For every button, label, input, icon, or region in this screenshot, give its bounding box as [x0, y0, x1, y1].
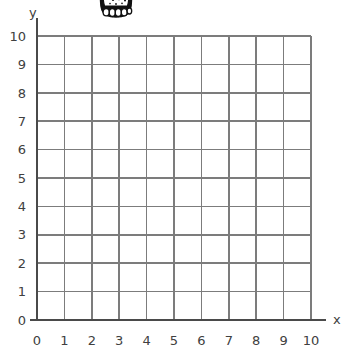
y-tick-9: 9	[0, 58, 26, 71]
x-tick-0: 0	[24, 334, 50, 347]
y-tick-1: 1	[0, 285, 26, 298]
coordinate-grid	[0, 0, 353, 363]
x-tick-9: 9	[271, 334, 297, 347]
worksheet-page: y x 10 9 8 7 6 5 4 3 2 1 0 0 1 2 3 4 5 6…	[0, 0, 353, 363]
y-tick-7: 7	[0, 115, 26, 128]
y-tick-3: 3	[0, 228, 26, 241]
x-tick-6: 6	[188, 334, 214, 347]
y-tick-5: 5	[0, 172, 26, 185]
y-tick-6: 6	[0, 143, 26, 156]
y-tick-2: 2	[0, 257, 26, 270]
x-tick-5: 5	[161, 334, 187, 347]
y-tick-4: 4	[0, 200, 26, 213]
x-tick-7: 7	[216, 334, 242, 347]
x-tick-10: 10	[298, 334, 324, 347]
y-tick-8: 8	[0, 87, 26, 100]
x-tick-1: 1	[51, 334, 77, 347]
y-tick-10: 10	[0, 30, 26, 43]
gridlines	[37, 36, 311, 320]
x-tick-4: 4	[134, 334, 160, 347]
x-tick-3: 3	[106, 334, 132, 347]
y-axis-label: y	[29, 6, 37, 19]
x-tick-2: 2	[79, 334, 105, 347]
axis-lines	[30, 18, 326, 320]
y-tick-0: 0	[0, 314, 26, 327]
x-tick-8: 8	[243, 334, 269, 347]
x-axis-label: x	[333, 313, 341, 326]
